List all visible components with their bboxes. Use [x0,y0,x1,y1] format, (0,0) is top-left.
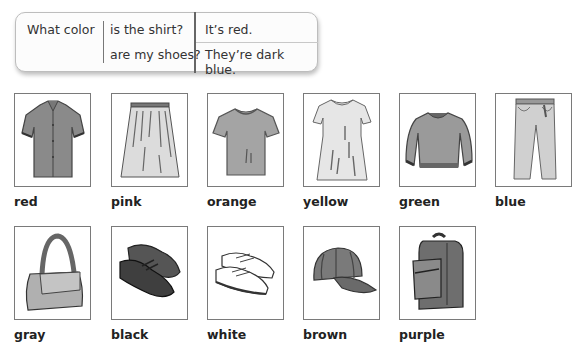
skirt-picture [111,93,188,187]
jeans-icon [504,95,564,185]
vocab-item-sweater: green [399,93,477,209]
vocab-item-sneakers: white [207,226,285,342]
vocab-item-shoes: black [111,226,189,342]
vocab-item-handbag: gray [14,226,92,342]
color-label: yellow [303,194,381,209]
question-ending-1: is the shirt? [110,22,183,37]
backpack-picture [399,226,476,320]
sneakers-icon [210,230,282,316]
sneakers-picture [207,226,284,320]
vocab-item-shirt: red [14,93,92,209]
vocab-item-skirt: pink [111,93,189,209]
handbag-icon [18,230,88,316]
vocab-item-cap: brown [303,226,381,342]
color-label: orange [207,194,285,209]
grammar-box: What color is the shirt? are my shoes? I… [15,12,318,72]
skirt-icon [115,97,185,183]
vocab-item-backpack: purple [399,226,477,342]
color-label: pink [111,194,189,209]
sweater-icon [402,97,474,183]
question-start: What color [27,22,95,37]
vocab-item-jeans: blue [495,93,573,209]
backpack-icon [403,229,473,317]
answer-1: It’s red. [205,22,253,37]
vocab-item-dress: yellow [303,93,381,209]
vocab-item-tshirt: orange [207,93,285,209]
dress-picture [303,93,380,187]
tshirt-picture [207,93,284,187]
color-label: blue [495,194,573,209]
shirt-icon [18,97,88,183]
color-label: gray [14,327,92,342]
color-label: white [207,327,285,342]
shoes-picture [111,226,188,320]
cap-picture [303,226,380,320]
dress-icon [307,96,377,184]
answer-2: They’re dark blue. [205,47,317,77]
jeans-picture [495,93,572,187]
color-label: black [111,327,189,342]
divider [196,42,318,43]
cap-icon [306,230,378,316]
sweater-picture [399,93,476,187]
shirt-picture [14,93,91,187]
question-ending-2: are my shoes? [110,47,201,62]
shoes-icon [114,230,186,316]
color-label: brown [303,327,381,342]
tshirt-icon [211,97,281,183]
color-label: purple [399,327,477,342]
color-label: red [14,194,92,209]
handbag-picture [14,226,91,320]
divider [103,21,104,63]
color-label: green [399,194,477,209]
